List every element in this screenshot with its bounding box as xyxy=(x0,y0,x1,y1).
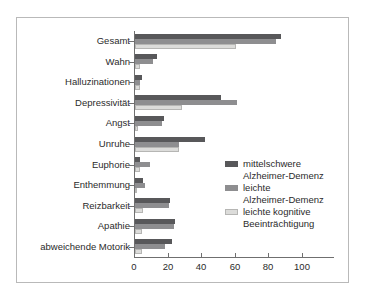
bar-series2-cat10 xyxy=(135,249,142,254)
legend-item-label: leichte kognitiveBeeinträchtigung xyxy=(243,206,350,229)
x-tick-2 xyxy=(201,253,202,257)
legend-swatch-icon xyxy=(225,209,238,215)
category-label-7: Enthemmung xyxy=(17,179,130,190)
plot-area: GesamtWahnHalluzinationenDepressivitätAn… xyxy=(17,18,350,284)
bar-series2-cat1 xyxy=(135,64,140,69)
category-tick-9 xyxy=(129,226,134,227)
bar-series2-cat4 xyxy=(135,126,138,131)
x-tick-1 xyxy=(168,253,169,257)
category-label-text: Unruhe xyxy=(99,138,130,149)
x-tick-5 xyxy=(302,253,303,257)
category-label-text: Wahn xyxy=(106,56,130,67)
category-tick-1 xyxy=(129,62,134,63)
x-tick-0 xyxy=(134,253,135,257)
bar-series2-cat7 xyxy=(135,188,137,193)
chart-panel: GesamtWahnHalluzinationenDepressivitätAn… xyxy=(16,17,349,283)
figure: GesamtWahnHalluzinationenDepressivitätAn… xyxy=(0,0,365,299)
bar-series2-cat6 xyxy=(135,167,140,172)
bar-series2-cat2 xyxy=(135,85,140,90)
category-label-text: Depressivität xyxy=(75,97,130,108)
category-label-text: Euphorie xyxy=(92,159,130,170)
bar-series2-cat0 xyxy=(135,44,236,49)
bar-series2-cat3 xyxy=(135,105,182,110)
category-tick-2 xyxy=(129,82,134,83)
bar-series1-cat4 xyxy=(135,121,162,126)
category-tick-6 xyxy=(129,165,134,166)
category-tick-5 xyxy=(129,144,134,145)
x-tick-label-1: 20 xyxy=(153,261,183,272)
chart-legend: mittelschwereAlzheimer-DemenzleichteAlzh… xyxy=(225,158,350,230)
category-label-9: Apathie xyxy=(17,220,130,231)
category-label-text: Gesamt xyxy=(97,35,130,46)
category-label-text: Enthemmung xyxy=(73,179,130,190)
category-label-4: Angst xyxy=(17,117,130,128)
category-tick-8 xyxy=(129,206,134,207)
category-label-5: Unruhe xyxy=(17,138,130,149)
x-axis-line xyxy=(134,257,334,258)
category-label-text: Reizbarkeit xyxy=(82,200,130,211)
category-label-1: Wahn xyxy=(17,56,130,67)
category-label-8: Reizbarkeit xyxy=(17,200,130,211)
category-label-6: Euphorie xyxy=(17,159,130,170)
x-tick-label-3: 60 xyxy=(220,261,250,272)
category-label-10: abweichende Motorik xyxy=(17,241,130,252)
bar-series2-cat5 xyxy=(135,147,179,152)
category-label-3: Depressivität xyxy=(17,97,130,108)
category-label-0: Gesamt xyxy=(17,35,130,46)
x-tick-4 xyxy=(268,253,269,257)
x-tick-3 xyxy=(235,253,236,257)
category-tick-4 xyxy=(129,123,134,124)
x-tick-label-4: 80 xyxy=(253,261,283,272)
category-label-text: Apathie xyxy=(98,220,130,231)
category-tick-10 xyxy=(129,247,134,248)
x-tick-label-0: 0 xyxy=(119,261,149,272)
legend-item-2: leichte kognitiveBeeinträchtigung xyxy=(225,206,350,229)
bar-series2-cat9 xyxy=(135,229,142,234)
legend-swatch-icon xyxy=(225,161,238,167)
category-tick-3 xyxy=(129,103,134,104)
bar-series2-cat8 xyxy=(135,208,143,213)
legend-swatch-icon xyxy=(225,185,238,191)
category-tick-7 xyxy=(129,185,134,186)
legend-item-0: mittelschwereAlzheimer-Demenz xyxy=(225,158,350,181)
category-label-2: Halluzinationen xyxy=(17,76,130,87)
legend-item-label: mittelschwereAlzheimer-Demenz xyxy=(243,158,350,181)
category-label-text: Halluzinationen xyxy=(65,76,130,87)
legend-item-label: leichteAlzheimer-Demenz xyxy=(243,182,350,205)
x-tick-label-2: 40 xyxy=(186,261,216,272)
category-label-text: Angst xyxy=(106,117,130,128)
legend-item-1: leichteAlzheimer-Demenz xyxy=(225,182,350,205)
category-tick-0 xyxy=(129,41,134,42)
category-label-text: abweichende Motorik xyxy=(40,241,130,252)
x-tick-label-5: 100 xyxy=(287,261,317,272)
